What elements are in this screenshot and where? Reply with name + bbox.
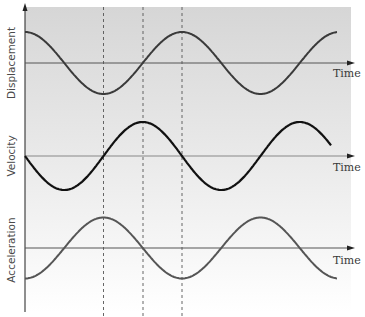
y-label-acceleration: Acceleration (5, 217, 17, 282)
time-label: Time (333, 254, 361, 267)
plot-background (25, 7, 351, 312)
time-label: Time (333, 161, 361, 174)
time-label: Time (333, 67, 361, 80)
y-label-velocity: Velocity (5, 135, 17, 176)
shm-diagram: Time Displacement Time Velocity Time Acc… (0, 0, 365, 317)
y-label-displacement: Displacement (5, 27, 17, 99)
